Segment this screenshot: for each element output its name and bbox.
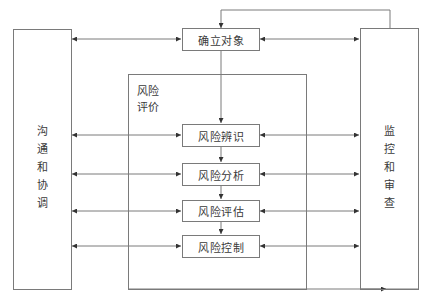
label-char: 控: [382, 141, 396, 159]
label-char: 和: [382, 159, 396, 177]
feedback-loop-line: [221, 10, 390, 28]
risk-evaluation-box: 风险评估: [182, 200, 260, 222]
label-char: 通: [35, 141, 49, 159]
risk-control-box: 风险控制: [182, 235, 260, 258]
risk-analysis-box: 风险分析: [182, 163, 260, 186]
label-line: 评价: [137, 100, 163, 116]
box-label: 风险评估: [198, 203, 244, 219]
box-label: 风险控制: [198, 239, 244, 255]
label-line: 风险: [137, 84, 163, 100]
establish-context-box: 确立对象: [182, 28, 260, 51]
label-char: 和: [35, 159, 49, 177]
communication-label: 沟 通 和 协 调: [35, 123, 49, 213]
label-char: 调: [35, 195, 49, 213]
box-label: 风险辨识: [198, 128, 244, 144]
label-char: 沟: [35, 123, 49, 141]
label-char: 协: [35, 177, 49, 195]
monitoring-label: 监 控 和 审 查: [382, 123, 396, 213]
label-char: 监: [382, 123, 396, 141]
risk-assessment-label: 风险 评价: [137, 84, 163, 116]
label-char: 查: [382, 195, 396, 213]
risk-identification-box: 风险辨识: [182, 124, 260, 147]
label-char: 审: [382, 177, 396, 195]
box-label: 确立对象: [198, 32, 244, 48]
box-label: 风险分析: [198, 167, 244, 183]
